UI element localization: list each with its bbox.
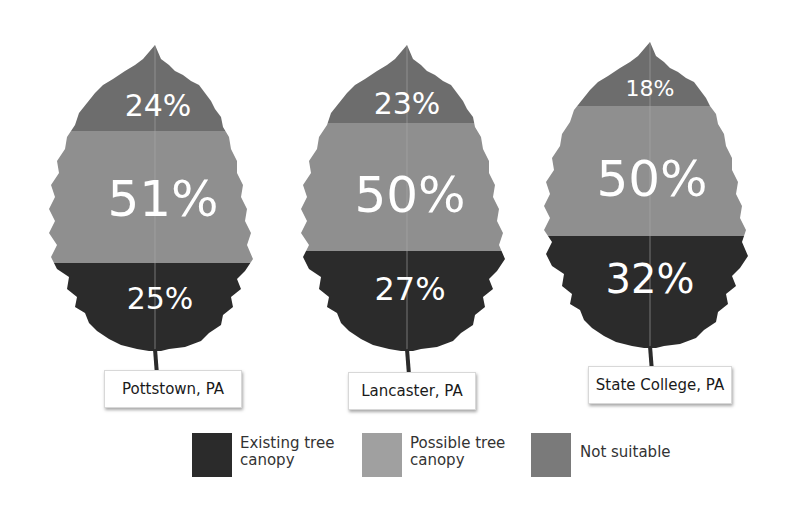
pct-possible-state-college: 50% [596,150,707,208]
city-label-lancaster: Lancaster, PA [348,372,476,410]
legend-label-existing: Existing treecanopy [240,435,334,469]
legend-swatch-existing [192,433,232,477]
city-label-pottstown: Pottstown, PA [104,370,242,408]
pct-existing-lancaster: 27% [374,270,445,308]
legend-label-not-suitable: Not suitable [580,444,671,461]
pct-existing-pottstown: 25% [127,281,194,316]
pct-possible-lancaster: 50% [354,166,465,224]
pct-not-suitable-state-college: 18% [626,76,675,101]
legend-swatch-not-suitable [531,433,571,477]
legend-label-possible: Possible treecanopy [410,435,505,469]
legend-swatch-possible [362,433,402,477]
pct-possible-pottstown: 51% [107,170,218,228]
city-label-state-college: State College, PA [588,366,732,404]
pct-not-suitable-pottstown: 24% [125,88,192,123]
pct-existing-state-college: 32% [606,256,695,302]
pct-not-suitable-lancaster: 23% [374,86,441,121]
